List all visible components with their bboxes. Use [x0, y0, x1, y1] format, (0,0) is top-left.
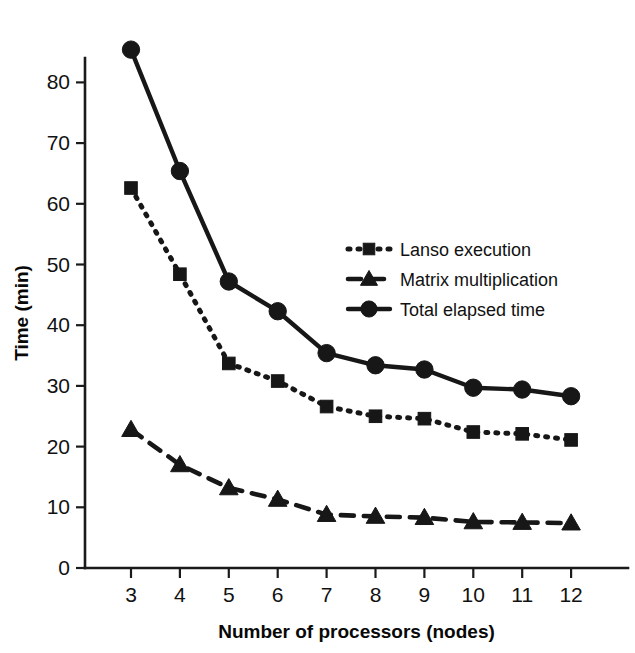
- data-point-marker: [467, 426, 480, 439]
- data-point-marker: [363, 243, 375, 255]
- axes: 010203040506070803456789101112: [47, 58, 628, 606]
- data-point-marker: [318, 344, 335, 361]
- legend-item[interactable]: Lanso execution: [348, 240, 531, 260]
- y-tick-label: 0: [58, 556, 70, 579]
- data-point-marker: [361, 301, 377, 317]
- data-point-marker: [268, 490, 287, 506]
- data-point-marker: [416, 361, 433, 378]
- legend-item[interactable]: Total elapsed time: [348, 300, 545, 320]
- data-point-marker: [271, 375, 284, 388]
- series-total-elapsed-time: [122, 41, 579, 405]
- data-point-marker: [174, 268, 187, 281]
- data-point-marker: [562, 388, 579, 405]
- legend-label: Total elapsed time: [400, 300, 545, 320]
- data-point-marker: [562, 514, 581, 530]
- y-tick-label: 80: [47, 70, 70, 93]
- data-point-marker: [565, 434, 578, 447]
- chart-figure: 010203040506070803456789101112 Lanso exe…: [0, 0, 635, 653]
- data-point-marker: [122, 420, 141, 436]
- series-line: [131, 430, 571, 523]
- data-point-marker: [125, 182, 138, 195]
- y-tick-label: 70: [47, 131, 70, 154]
- x-axis-title: Number of processors (nodes): [218, 621, 495, 642]
- legend-label: Matrix multiplication: [400, 270, 558, 290]
- data-point-marker: [320, 400, 333, 413]
- x-tick-label: 8: [370, 583, 382, 606]
- y-tick-label: 60: [47, 192, 70, 215]
- x-tick-label: 12: [559, 583, 582, 606]
- data-point-marker: [367, 357, 384, 374]
- data-point-marker: [369, 410, 382, 423]
- x-tick-label: 11: [511, 583, 533, 606]
- x-tick-label: 6: [272, 583, 284, 606]
- data-point-marker: [220, 273, 237, 290]
- y-tick-label: 40: [47, 313, 70, 336]
- data-point-marker: [418, 412, 431, 425]
- x-tick-label: 4: [174, 583, 186, 606]
- data-point-marker: [171, 162, 188, 179]
- legend: Lanso executionMatrix multiplicationTota…: [348, 240, 558, 320]
- line-chart-canvas: 010203040506070803456789101112 Lanso exe…: [0, 0, 635, 653]
- series-matrix-multiplication: [122, 420, 581, 530]
- series-line: [131, 50, 571, 397]
- data-point-marker: [516, 428, 529, 441]
- x-tick-label: 3: [125, 583, 137, 606]
- data-point-marker: [122, 41, 139, 58]
- x-tick-label: 10: [462, 583, 485, 606]
- x-tick-label: 7: [321, 583, 333, 606]
- y-axis-title: Time (min): [11, 265, 32, 361]
- y-tick-label: 20: [47, 435, 70, 458]
- data-point-marker: [269, 303, 286, 320]
- data-point-marker: [223, 357, 236, 370]
- data-point-marker: [220, 479, 239, 495]
- x-tick-label: 5: [223, 583, 235, 606]
- y-tick-label: 50: [47, 253, 70, 276]
- data-point-marker: [514, 381, 531, 398]
- y-tick-label: 10: [47, 495, 70, 518]
- x-tick-label: 9: [419, 583, 431, 606]
- legend-label: Lanso execution: [400, 240, 531, 260]
- legend-item[interactable]: Matrix multiplication: [348, 270, 558, 290]
- y-tick-label: 30: [47, 374, 70, 397]
- data-point-marker: [465, 379, 482, 396]
